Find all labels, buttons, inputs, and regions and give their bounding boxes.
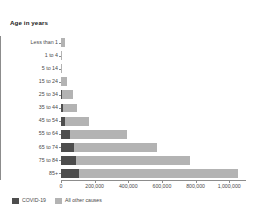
bar-row[interactable] xyxy=(61,51,246,60)
legend-label: All other causes xyxy=(65,198,102,203)
y-axis-tick-labels: Less than 11 to 45 to 1415 to 2425 to 34… xyxy=(0,36,58,180)
bar-segment[interactable] xyxy=(63,104,77,113)
x-axis-tick-label: 200,000 xyxy=(85,184,104,189)
bar-segment[interactable] xyxy=(61,77,67,86)
y-axis-tick-label: 1 to 4 xyxy=(45,53,58,58)
bar-segment[interactable] xyxy=(61,64,62,73)
x-axis-tick-label: 800,000 xyxy=(186,184,205,189)
y-axis-tick-label: 65 to 74 xyxy=(39,145,58,150)
bar-segment[interactable] xyxy=(74,143,156,152)
bar-segment[interactable] xyxy=(79,169,238,178)
bar-segment[interactable] xyxy=(76,156,190,165)
bar-segment[interactable] xyxy=(62,90,73,99)
page-title: Age in years xyxy=(10,19,48,26)
x-axis-tick-label: 0 xyxy=(60,184,63,189)
legend-item[interactable]: COVID-19 xyxy=(12,198,46,204)
x-axis-tick-label: 1,000,000 xyxy=(218,184,241,189)
legend-swatch-icon xyxy=(12,198,19,204)
bar-row[interactable] xyxy=(61,104,246,113)
bar-row[interactable] xyxy=(61,64,246,73)
bar-row[interactable] xyxy=(61,117,246,126)
legend-swatch-icon xyxy=(55,198,62,204)
bar-row[interactable] xyxy=(61,90,246,99)
y-axis-tick-label: 15 to 24 xyxy=(39,79,58,84)
plot-area xyxy=(61,36,246,180)
chart-figure: Age in years Less than 11 to 45 to 1415 … xyxy=(0,0,258,220)
y-axis-tick-label: 35 to 44 xyxy=(39,105,58,110)
y-axis-tick-label: Less than 1 xyxy=(31,40,58,45)
bar-row[interactable] xyxy=(61,169,246,178)
bar-row[interactable] xyxy=(61,77,246,86)
bar-row[interactable] xyxy=(61,156,246,165)
bar-segment[interactable] xyxy=(61,169,79,178)
legend-item[interactable]: All other causes xyxy=(55,198,102,204)
bar-segment[interactable] xyxy=(61,51,62,60)
bar-segment[interactable] xyxy=(61,143,74,152)
bar-segment[interactable] xyxy=(61,156,76,165)
bar-segment[interactable] xyxy=(61,38,65,47)
y-axis-tick-label: 55 to 64 xyxy=(39,131,58,136)
bar-row[interactable] xyxy=(61,143,246,152)
bar-row[interactable] xyxy=(61,38,246,47)
y-axis-tick-label: 5 to 14 xyxy=(42,66,58,71)
bar-segment[interactable] xyxy=(65,117,89,126)
y-axis-tick-label: 45 to 54 xyxy=(39,118,58,123)
y-axis-tick-label: 75 to 84 xyxy=(39,158,58,163)
bar-segment[interactable] xyxy=(70,130,127,139)
y-axis-tick-label: 25 to 34 xyxy=(39,92,58,97)
chart-legend: COVID-19All other causes xyxy=(12,198,102,204)
x-axis-tick-label: 600,000 xyxy=(153,184,172,189)
bar-segment[interactable] xyxy=(61,130,70,139)
legend-label: COVID-19 xyxy=(22,198,46,203)
x-axis-tick-label: 400,000 xyxy=(119,184,138,189)
bar-row[interactable] xyxy=(61,130,246,139)
x-axis-ticks: 0200,000400,000600,000800,0001,000,000 xyxy=(61,180,246,196)
y-axis-tick-label: 85+ xyxy=(49,171,58,176)
